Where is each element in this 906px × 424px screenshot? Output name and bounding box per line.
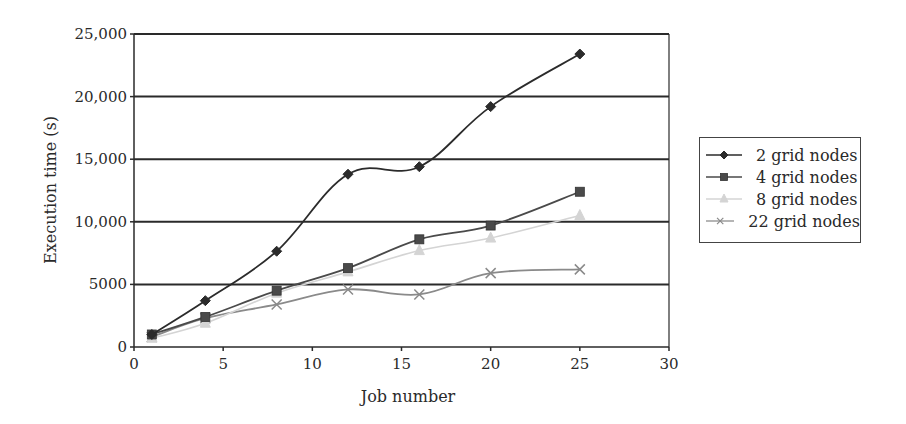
y-tick-label: 25,000 bbox=[75, 25, 128, 43]
diamond-marker bbox=[343, 169, 353, 179]
diamond-marker bbox=[200, 296, 210, 306]
y-tick-label: 20,000 bbox=[75, 88, 128, 106]
series-line bbox=[152, 216, 580, 339]
legend-item-22-nodes: 22 grid nodes bbox=[700, 210, 860, 232]
square-marker bbox=[575, 187, 584, 196]
legend-label: 4 grid nodes bbox=[756, 168, 857, 187]
square-marker bbox=[415, 235, 424, 244]
x-marker-icon bbox=[706, 214, 734, 228]
y-tick-label: 15,000 bbox=[75, 150, 128, 168]
y-tick-label: 5000 bbox=[89, 275, 127, 293]
diamond-marker-icon bbox=[706, 148, 742, 162]
series-22-grid-nodes bbox=[147, 264, 585, 342]
x-tick-label: 20 bbox=[481, 355, 500, 373]
legend-item-8-nodes: 8 grid nodes bbox=[700, 188, 860, 210]
legend-label: 8 grid nodes bbox=[756, 190, 857, 209]
legend: 2 grid nodes 4 grid nodes 8 grid nodes 2… bbox=[699, 137, 861, 243]
triangle-marker bbox=[575, 210, 585, 220]
tick-labels: 0500010,00015,00020,00025,00005101520253… bbox=[75, 25, 679, 373]
diamond-marker bbox=[575, 49, 585, 59]
legend-label: 22 grid nodes bbox=[748, 212, 860, 231]
x-tick-label: 30 bbox=[659, 355, 678, 373]
legend-label: 2 grid nodes bbox=[756, 146, 857, 165]
square-marker bbox=[272, 286, 281, 295]
square-marker bbox=[344, 264, 353, 273]
square-marker bbox=[201, 312, 210, 321]
x-tick-label: 25 bbox=[570, 355, 589, 373]
series-line bbox=[152, 269, 580, 337]
square-marker bbox=[486, 221, 495, 230]
y-tick-label: 10,000 bbox=[75, 213, 128, 231]
square-marker bbox=[721, 174, 728, 181]
x-tick-label: 15 bbox=[392, 355, 411, 373]
x-tick-label: 0 bbox=[129, 355, 139, 373]
legend-item-4-nodes: 4 grid nodes bbox=[700, 166, 860, 188]
series-8-grid-nodes bbox=[147, 210, 585, 343]
y-axis-title: Execution time (s) bbox=[41, 116, 60, 264]
triangle-marker bbox=[720, 194, 728, 202]
x-tick-label: 10 bbox=[303, 355, 322, 373]
axes bbox=[130, 34, 669, 351]
triangle-marker-icon bbox=[706, 192, 742, 206]
x-tick-label: 5 bbox=[218, 355, 228, 373]
legend-item-2-nodes: 2 grid nodes bbox=[700, 144, 860, 166]
square-marker-icon bbox=[706, 170, 742, 184]
y-tick-label: 0 bbox=[117, 338, 127, 356]
diamond-marker bbox=[414, 162, 424, 172]
series-line bbox=[152, 192, 580, 335]
diamond-marker bbox=[720, 151, 728, 159]
series-2-grid-nodes bbox=[147, 49, 585, 339]
gridlines bbox=[134, 34, 669, 284]
x-axis-title: Job number bbox=[359, 387, 456, 406]
data-series bbox=[147, 49, 585, 342]
